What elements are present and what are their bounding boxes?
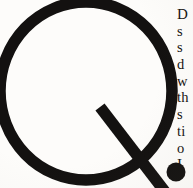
- body-text-column: D s s d w th s ti o I: [177, 6, 193, 188]
- q-ring-icon: [0, 2, 172, 180]
- body-text-line: s: [177, 39, 193, 56]
- body-text-line: d: [177, 56, 193, 73]
- dropcap-q-letter: [0, 0, 186, 188]
- body-text-line: D: [177, 6, 193, 23]
- dropcap-q-glyph: [0, 2, 186, 188]
- body-text-line: ti: [177, 123, 193, 140]
- document-page: D s s d w th s ti o I: [0, 0, 193, 188]
- body-text-line: s: [177, 23, 193, 40]
- body-text-line: o: [177, 140, 193, 157]
- body-text-line: w: [177, 73, 193, 90]
- body-text-line: I: [177, 156, 193, 173]
- body-text-line: s: [177, 106, 193, 123]
- body-text-line: th: [177, 89, 193, 106]
